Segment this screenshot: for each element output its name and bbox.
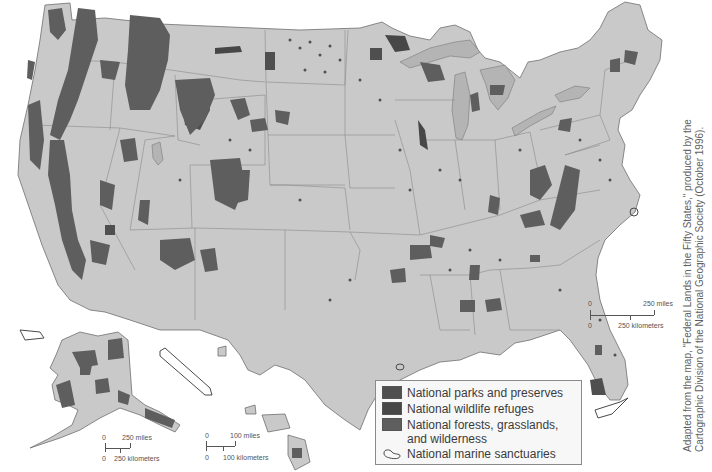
scale-bar-alaska: 0 250 miles 0 250 kilometers	[102, 434, 182, 470]
scale-km-label: 250 kilometers	[114, 455, 160, 462]
scale-zero: 0	[588, 300, 592, 307]
scale-zero: 0	[102, 434, 106, 441]
scale-zero: 0	[588, 322, 592, 329]
federal-lands-map	[0, 0, 712, 472]
map-legend: National parks and preserves National wi…	[375, 380, 582, 465]
scale-zero: 0	[205, 454, 209, 461]
parks-swatch-icon	[382, 386, 402, 399]
legend-label: National forests, grasslands, and wilder…	[407, 418, 575, 446]
scale-zero: 0	[205, 432, 209, 439]
scale-km-label: 100 kilometers	[223, 454, 269, 461]
scale-zero: 0	[102, 455, 106, 462]
source-credit: Adapted from the map, "Federal Lands in …	[682, 82, 706, 452]
scale-bar-contiguous: 0 250 miles 0 250 kilometers	[588, 300, 668, 336]
legend-item-parks: National parks and preserves	[382, 386, 575, 402]
scale-miles-label: 250 miles	[643, 300, 673, 307]
legend-item-forests: National forests, grasslands, and wilder…	[382, 418, 575, 447]
refuges-swatch-icon	[382, 402, 402, 415]
legend-label: National parks and preserves	[407, 386, 563, 400]
scale-bar-hawaii: 0 100 miles 0 100 kilometers	[205, 432, 285, 468]
scale-miles-label: 250 miles	[122, 434, 152, 441]
sanctuary-outline-icon	[382, 447, 402, 460]
legend-label: National wildlife refuges	[407, 402, 534, 416]
legend-label: National marine sanctuaries	[407, 447, 556, 461]
legend-item-refuges: National wildlife refuges	[382, 402, 575, 418]
scale-km-label: 250 kilometers	[618, 322, 664, 329]
scale-miles-label: 100 miles	[230, 432, 260, 439]
forests-swatch-icon	[382, 418, 402, 431]
legend-item-sanctuaries: National marine sanctuaries	[382, 447, 575, 463]
